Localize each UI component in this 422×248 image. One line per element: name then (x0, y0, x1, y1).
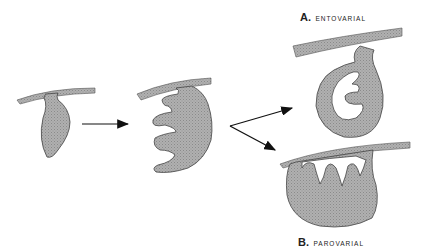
label-a-letter: A. (300, 11, 311, 23)
label-entovarial: A. ENTOVARIAL (300, 7, 366, 25)
label-parovarial: B. PAROVARIAL (298, 232, 364, 248)
stage-2-lobed (137, 78, 212, 173)
entovarial-diagram (293, 28, 402, 137)
diagram-canvas (0, 0, 422, 248)
label-b-letter: B. (298, 236, 309, 248)
stage-1-bud-body (41, 93, 70, 157)
arrow-to-entovarial (230, 108, 292, 126)
arrow-to-parovarial (230, 126, 275, 150)
entovarial-membrane (293, 28, 402, 57)
label-b-text: PAROVARIAL (313, 240, 364, 247)
stage-1-bud (17, 88, 95, 157)
parovarial-diagram (280, 142, 410, 227)
label-a-text: ENTOVARIAL (315, 15, 366, 22)
stage-2-lobed-body (153, 86, 212, 173)
